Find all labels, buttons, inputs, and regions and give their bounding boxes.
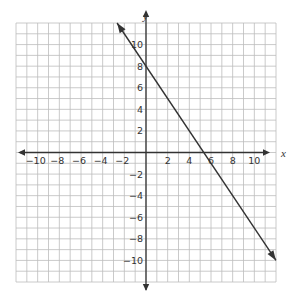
y-tick-label: 6	[137, 82, 143, 93]
y-tick-label: −2	[129, 169, 143, 180]
y-tick-label: −10	[123, 255, 143, 266]
x-tick-label: 2	[165, 155, 171, 166]
x-tick-label: −2	[115, 155, 129, 166]
y-axis-label: y	[142, 10, 148, 22]
y-tick-label: −8	[129, 233, 143, 244]
x-tick-label: −6	[72, 155, 86, 166]
y-tick-label: 2	[137, 125, 143, 136]
y-tick-label: 4	[137, 104, 143, 115]
axes	[18, 10, 270, 291]
y-tick-label: −6	[129, 212, 143, 223]
x-axis-label: x	[280, 147, 286, 159]
y-tick-label: 8	[137, 61, 143, 72]
x-axis-left-arrow-icon	[18, 149, 25, 155]
x-tick-label: −10	[26, 155, 46, 166]
line-end-arrow-icon	[268, 250, 276, 260]
x-tick-label: −4	[94, 155, 108, 166]
x-tick-label: −8	[50, 155, 64, 166]
x-tick-label: 10	[248, 155, 260, 166]
x-tick-label: 8	[230, 155, 236, 166]
y-tick-label: 10	[131, 39, 143, 50]
x-axis-right-arrow-icon	[263, 149, 270, 155]
x-tick-label: 4	[186, 155, 192, 166]
y-tick-label: −4	[129, 190, 143, 201]
y-axis-down-arrow-icon	[143, 284, 149, 291]
coordinate-plane: −10−8−6−4−2246810−10−8−6−4−2246810 x y	[0, 0, 299, 293]
